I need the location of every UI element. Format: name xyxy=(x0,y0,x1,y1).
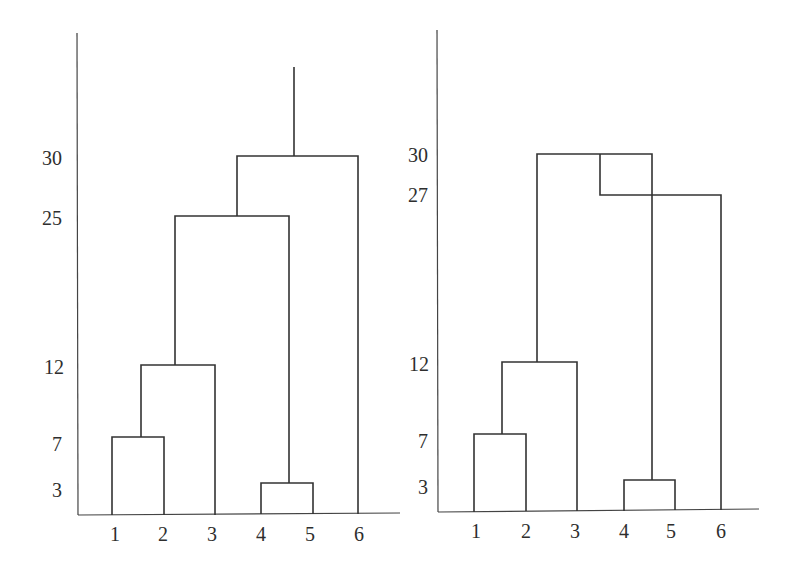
left-x-tick-labels: 1 2 3 4 5 6 xyxy=(110,523,364,545)
left-dendrogram: 30 25 12 7 3 1 2 3 4 5 6 xyxy=(42,33,400,545)
right-y-label-12: 12 xyxy=(409,353,429,375)
right-x-label-6: 6 xyxy=(716,520,726,542)
left-y-label-12: 12 xyxy=(44,356,64,378)
left-y-label-7: 7 xyxy=(52,433,62,455)
left-y-label-30: 30 xyxy=(42,147,62,169)
right-x-tick-labels: 1 2 3 4 5 6 xyxy=(471,520,726,542)
left-x-label-5: 5 xyxy=(305,523,315,545)
right-y-label-7: 7 xyxy=(418,430,428,452)
left-merge-12345-6 xyxy=(237,156,358,514)
left-x-label-2: 2 xyxy=(158,523,168,545)
right-merge-123-45 xyxy=(537,154,652,480)
left-x-axis xyxy=(78,513,400,515)
left-x-label-1: 1 xyxy=(110,523,120,545)
right-y-tick-labels: 30 27 12 7 3 xyxy=(408,144,429,498)
right-merge-12-3 xyxy=(502,362,577,511)
right-x-label-2: 2 xyxy=(521,520,531,542)
dendrogram-figure: 30 25 12 7 3 1 2 3 4 5 6 30 27 xyxy=(0,0,793,569)
left-x-label-4: 4 xyxy=(256,523,266,545)
left-x-label-3: 3 xyxy=(207,523,217,545)
right-y-axis xyxy=(437,30,438,512)
right-dendrogram: 30 27 12 7 3 1 2 3 4 5 6 xyxy=(408,30,759,542)
right-y-label-3: 3 xyxy=(418,476,428,498)
left-merge-1-2 xyxy=(112,437,164,515)
right-x-label-4: 4 xyxy=(619,520,629,542)
left-merge-12-3 xyxy=(141,365,215,515)
right-merge-4-5 xyxy=(624,480,675,511)
left-y-axis xyxy=(77,33,78,515)
left-merge-123-45 xyxy=(175,216,289,483)
left-y-label-25: 25 xyxy=(42,207,62,229)
right-y-label-30: 30 xyxy=(408,144,428,166)
left-x-label-6: 6 xyxy=(354,523,364,545)
right-merge-1-2 xyxy=(474,434,526,512)
left-y-label-3: 3 xyxy=(52,479,62,501)
right-x-axis xyxy=(438,509,759,512)
right-merge-45-6 xyxy=(600,154,721,510)
right-x-label-5: 5 xyxy=(666,520,676,542)
left-y-tick-labels: 30 25 12 7 3 xyxy=(42,147,64,501)
right-x-label-3: 3 xyxy=(570,520,580,542)
left-merge-4-5 xyxy=(261,483,313,514)
right-x-label-1: 1 xyxy=(471,520,481,542)
right-y-label-27: 27 xyxy=(408,184,428,206)
